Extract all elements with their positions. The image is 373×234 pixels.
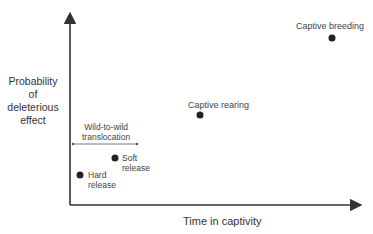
point-captive-rearing bbox=[197, 112, 204, 119]
label-line: Hard bbox=[88, 170, 116, 180]
point-hard-release bbox=[77, 172, 84, 179]
bracket-end-left bbox=[72, 143, 74, 145]
label-captive-breeding: Captive breeding bbox=[296, 21, 364, 31]
label-captive-rearing: Captive rearing bbox=[188, 100, 249, 110]
label-line: release bbox=[122, 163, 150, 173]
label-hard-release: Hard release bbox=[88, 170, 116, 190]
y-axis-label-line: deleterious bbox=[0, 101, 66, 114]
x-axis-label: Time in captivity bbox=[183, 215, 261, 227]
label-line: Captive breeding bbox=[296, 21, 364, 31]
label-line: Captive rearing bbox=[188, 100, 249, 110]
y-axis-label-line: of bbox=[0, 88, 66, 101]
label-line: Soft bbox=[122, 153, 150, 163]
point-captive-breeding bbox=[329, 35, 336, 42]
y-axis-label-line: Probability bbox=[0, 75, 66, 88]
bracket-label-line: Wild-to-wild bbox=[82, 122, 130, 132]
bracket-label-line: translocation bbox=[82, 132, 130, 142]
point-soft-release bbox=[112, 155, 119, 162]
y-axis-label-line: effect bbox=[0, 114, 66, 127]
bracket-end-right bbox=[136, 143, 138, 145]
label-line: release bbox=[88, 180, 116, 190]
y-axis-label: Probability of deleterious effect bbox=[0, 75, 66, 127]
bracket-label: Wild-to-wild translocation bbox=[82, 122, 130, 142]
label-soft-release: Soft release bbox=[122, 153, 150, 173]
